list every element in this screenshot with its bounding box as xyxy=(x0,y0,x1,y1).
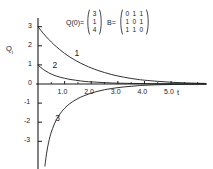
y-axis-label: Qi xyxy=(6,44,13,55)
curve-label-1: 1 xyxy=(75,48,80,58)
b-matrix: 011101110 xyxy=(119,9,150,35)
y-tick-label: 3 xyxy=(28,22,32,29)
b-matrix-cell: 0 xyxy=(124,10,131,18)
q-initial-label: Q(0)= xyxy=(66,19,84,26)
b-matrix-row: 110 xyxy=(124,26,145,34)
b-matrix-cell: 1 xyxy=(131,26,138,34)
b-matrix-cell: 1 xyxy=(131,10,138,18)
b-matrix-label: B= xyxy=(107,19,116,26)
b-matrix-row: 101 xyxy=(124,18,145,26)
b-matrix-cell: 1 xyxy=(138,10,145,18)
b-matrix-cell: 0 xyxy=(131,18,138,26)
x-tick-label: 3.0 xyxy=(111,88,121,95)
y-tick-label: -3 xyxy=(24,136,30,143)
curve-series-1 xyxy=(38,27,206,84)
curve-label-3: 3 xyxy=(55,113,60,123)
q-initial-vector: 314 xyxy=(86,9,103,35)
x-tick-label: 1.0 xyxy=(58,88,68,95)
equation-annotation: Q(0)= 314 B= 011101110 xyxy=(66,9,151,35)
y-tick-label: 1 xyxy=(28,60,32,67)
q-vector-row: 3 xyxy=(91,10,98,18)
b-matrix-cell: 1 xyxy=(138,18,145,26)
b-matrix-cell: 0 xyxy=(138,26,145,34)
q-vector-cell: 3 xyxy=(91,10,98,18)
right-paren-icon xyxy=(146,9,150,35)
q-vector-cell: 4 xyxy=(91,26,98,34)
curve-label-2: 2 xyxy=(53,60,58,70)
y-tick-label: 0 xyxy=(28,79,32,86)
b-matrix-cell: 1 xyxy=(124,18,131,26)
b-matrix-row: 011 xyxy=(124,10,145,18)
q-vector-row: 4 xyxy=(91,26,98,34)
curve-series-3 xyxy=(45,84,206,166)
right-paren-icon xyxy=(99,9,103,35)
b-matrix-cell: 1 xyxy=(124,26,131,34)
y-tick-label: -2 xyxy=(24,117,30,124)
x-tick-label: 4.0 xyxy=(137,88,147,95)
x-tick-label: 2.0 xyxy=(84,88,94,95)
x-axis-label: t xyxy=(177,88,179,97)
y-tick-label: -1 xyxy=(24,98,30,105)
curve-series-2 xyxy=(38,65,206,84)
plot-figure: Qi t 1.02.03.04.05.03210-1-2-3123 Q(0)= … xyxy=(0,0,213,169)
y-tick-label: 2 xyxy=(28,41,32,48)
q-vector-row: 1 xyxy=(91,18,98,26)
curves-group xyxy=(38,27,206,166)
x-tick-label: 5.0 xyxy=(164,88,174,95)
q-vector-cell: 1 xyxy=(91,18,98,26)
